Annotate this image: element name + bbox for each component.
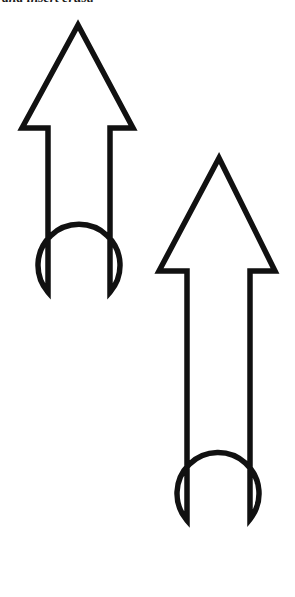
arrows-figure [0,0,295,597]
arrow-shape-group [22,25,275,520]
figure-page: and insert crust. [0,0,295,597]
arrow-one [22,25,133,292]
arrow-two [159,158,275,520]
